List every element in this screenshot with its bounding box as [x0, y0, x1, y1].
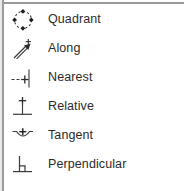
menu-item-quadrant[interactable]: Quadrant: [4, 5, 184, 34]
relative-snap-icon: [6, 92, 40, 121]
perpendicular-snap-icon: [6, 150, 40, 179]
menu-item-nearest[interactable]: Nearest: [4, 63, 184, 92]
menu-item-label: Relative: [40, 100, 94, 113]
menu-item-perpendicular[interactable]: Perpendicular: [4, 150, 184, 179]
menu-item-label: Perpendicular: [40, 158, 126, 171]
menu-item-label: Quadrant: [40, 13, 101, 26]
nearest-snap-icon: [6, 63, 40, 92]
menu-item-label: Nearest: [40, 71, 92, 84]
menu-item-list: Quadrant Along: [4, 5, 184, 191]
menu-item-along[interactable]: Along: [4, 34, 184, 63]
menu-item-tangent[interactable]: Tangent: [4, 121, 184, 150]
snap-mode-menu: Quadrant Along: [0, 0, 184, 191]
menu-item-relative[interactable]: Relative: [4, 92, 184, 121]
quadrant-snap-icon: [6, 5, 40, 34]
along-snap-icon: [6, 34, 40, 63]
tangent-snap-icon: [6, 121, 40, 150]
menu-item-label: Along: [40, 42, 80, 55]
menu-item-label: Tangent: [40, 129, 93, 142]
